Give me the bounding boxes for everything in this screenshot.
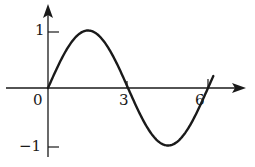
origin-label: 0 [33, 93, 43, 108]
x-tick-label-6: 6 [195, 93, 205, 108]
x-tick-label-3: 3 [119, 93, 129, 108]
y-tick-label-1: 1 [35, 23, 45, 38]
y-tick-label-neg1: −1 [19, 139, 41, 154]
